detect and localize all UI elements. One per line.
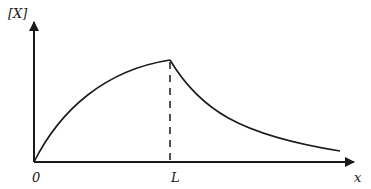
concentration-profile-plot [0,0,371,189]
peak-position-label: L [171,170,180,185]
origin-label: 0 [32,170,40,185]
rising-curve [34,60,170,162]
decaying-curve [170,60,340,151]
y-axis-label: [X] [8,6,27,21]
diagram-canvas: [X] 0 L x [0,0,371,189]
x-axis-label: x [354,170,361,185]
